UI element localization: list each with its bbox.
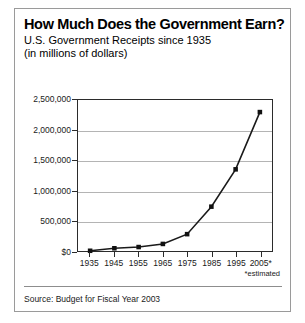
data-point-marker	[185, 232, 190, 237]
chart-header: How Much Does the Government Earn? U.S. …	[24, 16, 286, 60]
plot-area	[77, 99, 273, 252]
y-axis-tick-label: 1,500,000	[33, 156, 71, 165]
data-point-marker	[258, 110, 263, 115]
data-point-marker	[112, 246, 117, 251]
estimated-note: *estimated	[245, 270, 280, 278]
x-axis-tick-mark	[187, 252, 188, 257]
x-axis-tick-mark	[163, 252, 164, 257]
chart-figure: How Much Does the Government Earn? U.S. …	[14, 8, 291, 312]
x-axis-tick-label: 1975	[178, 259, 197, 268]
series-line	[90, 112, 260, 251]
x-axis-tick-mark	[261, 252, 262, 257]
data-point-marker	[161, 242, 166, 247]
x-axis-tick-label: 1935	[80, 259, 99, 268]
x-axis-tick-mark	[212, 252, 213, 257]
x-axis-tick-label: 1965	[153, 259, 172, 268]
source-note: Source: Budget for Fiscal Year 2003	[24, 294, 160, 304]
x-axis-tick-label: 2005*	[250, 259, 272, 268]
data-point-marker	[136, 245, 141, 250]
x-axis-tick-label: 1995	[227, 259, 246, 268]
y-axis-tick-mark	[72, 252, 77, 253]
footer-divider	[24, 286, 282, 287]
chart-subtitle-line-2: (in millions of dollars)	[24, 47, 286, 60]
x-axis-tick-label: 1945	[104, 259, 123, 268]
page-title: How Much Does the Government Earn?	[24, 16, 286, 32]
data-point-marker	[233, 167, 238, 172]
data-point-marker	[209, 204, 214, 209]
y-axis-tick-label: 2,500,000	[33, 95, 71, 104]
chart-subtitle-line-1: U.S. Government Receipts since 1935	[24, 34, 286, 47]
x-axis-tick-mark	[236, 252, 237, 257]
x-axis-tick-mark	[89, 252, 90, 257]
x-axis-tick-mark	[138, 252, 139, 257]
plot-wrapper: $0500,0001,000,0001,500,0002,000,0002,50…	[15, 89, 292, 279]
y-axis-tick-label: 1,000,000	[33, 187, 71, 196]
y-axis-tick-label: 500,000	[40, 217, 71, 226]
y-axis-tick-label: $0	[62, 248, 71, 257]
y-axis-tick-label: 2,000,000	[33, 125, 71, 134]
receipts-line-series	[78, 100, 272, 251]
x-axis-tick-label: 1955	[129, 259, 148, 268]
x-axis-tick-mark	[114, 252, 115, 257]
x-axis-tick-label: 1985	[202, 259, 221, 268]
